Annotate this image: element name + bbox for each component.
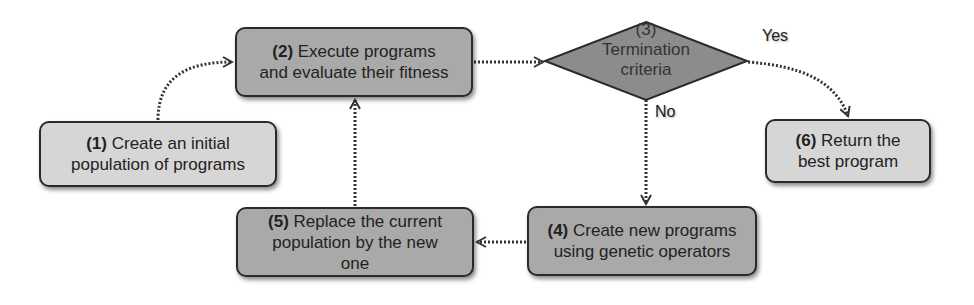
node-4-line2: using genetic operators [554,241,731,262]
edge-3-to-6 [748,62,848,116]
node-6-return-best-program: (6) Return the best program [765,119,931,183]
node-3-termination-criteria: (3) Termination criteria [586,20,706,80]
node-5-line2: population by the new [272,232,437,253]
node-2-line2: and evaluate their fitness [259,62,448,83]
node-5-line3: one [341,253,369,274]
node-4-create-new-programs: (4) Create new programs using genetic op… [527,206,757,276]
node-6-line2: best program [798,151,898,172]
edge-label-no: No [655,103,675,121]
node-2-number: (2) [272,42,293,61]
node-3-number: (3) [586,20,706,40]
node-3-line1: Termination [586,40,706,60]
node-4-line1: Create new programs [573,221,736,240]
node-4-number: (4) [548,221,569,240]
node-1-number: (1) [86,134,107,153]
edge-label-yes: Yes [762,27,788,45]
node-2-execute-and-evaluate: (2) Execute programs and evaluate their … [235,27,473,97]
node-5-line1: Replace the current [294,212,442,231]
node-5-replace-population: (5) Replace the current population by th… [236,207,474,277]
node-1-line1: Create an initial [112,134,230,153]
node-1-create-initial-population: (1) Create an initial population of prog… [39,121,277,187]
node-6-line1: Return the [821,131,900,150]
node-3-line2: criteria [586,60,706,80]
node-5-number: (5) [268,212,289,231]
edge-1-to-2 [158,62,232,120]
node-6-number: (6) [796,131,817,150]
flowchart-canvas: (1) Create an initial population of prog… [0,0,974,305]
node-1-line2: population of programs [71,154,245,175]
node-2-line1: Execute programs [298,42,436,61]
